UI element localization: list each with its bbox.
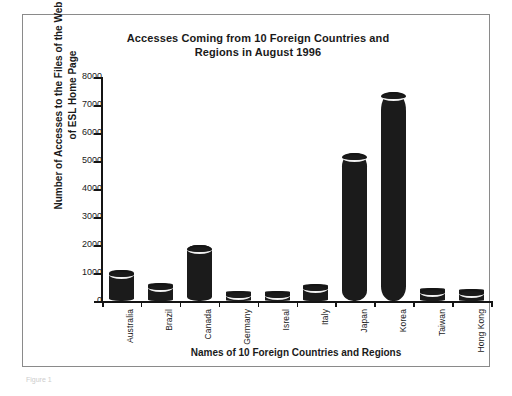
bar[interactable] <box>109 270 134 301</box>
x-tick-mark <box>491 301 493 307</box>
x-tick-mark <box>413 301 415 307</box>
bar-cylinder-body <box>420 288 445 301</box>
bar-cylinder-top <box>303 284 328 293</box>
figure-caption: Figure 1 <box>26 376 52 383</box>
x-axis-label: Italy <box>320 309 330 325</box>
bar-cylinder-top <box>187 245 212 254</box>
bar-cylinder-top-inner <box>305 286 326 291</box>
x-tick-mark <box>219 301 221 307</box>
x-axis-label: Hong Kong <box>476 309 486 352</box>
bar[interactable] <box>459 289 484 301</box>
x-axis-title: Names of 10 Foreign Countries and Region… <box>101 347 491 358</box>
y-tick-label: 7000 <box>58 99 102 109</box>
bar-cylinder-body <box>187 245 212 301</box>
x-axis-label: Brazil <box>164 309 174 331</box>
bar-cylinder-top-inner <box>228 293 249 298</box>
plot-area: Number of Accesses to the Files of the W… <box>23 15 491 368</box>
y-tick-label: 6000 <box>58 127 102 137</box>
y-tick-label: 1000 <box>58 267 102 277</box>
bar-cylinder-top-inner <box>189 247 210 252</box>
y-tick-label: 3000 <box>58 211 102 221</box>
bar-cylinder-body <box>303 284 328 301</box>
bar-cylinder-top-inner <box>344 155 365 160</box>
y-tick-label: 2000 <box>58 239 102 249</box>
x-tick-mark <box>258 301 260 307</box>
x-axis-label: Isreal <box>281 309 291 330</box>
bar-cylinder-body <box>342 153 367 301</box>
bar-cylinder-body <box>265 291 290 301</box>
bar-cylinder-top <box>459 289 484 298</box>
x-tick-mark <box>180 301 182 307</box>
figure-frame: Accesses Coming from 10 Foreign Countrie… <box>22 14 490 367</box>
bar-cylinder-top <box>148 283 173 292</box>
x-tick-mark <box>297 301 299 307</box>
bar-cylinder-top <box>109 270 134 279</box>
bar[interactable] <box>226 291 251 301</box>
bar-cylinder-top <box>381 92 406 101</box>
bar[interactable] <box>303 284 328 301</box>
y-tick-label: 5000 <box>58 155 102 165</box>
y-tick-label: 4000 <box>58 183 102 193</box>
bar[interactable] <box>265 291 290 301</box>
bar-cylinder-top-inner <box>461 291 482 296</box>
x-tick-mark <box>102 301 104 307</box>
bar-cylinder-top <box>265 291 290 300</box>
bar-cylinder-body <box>109 270 134 301</box>
bar-cylinder-top-inner <box>422 290 443 295</box>
bar-cylinder-top <box>342 153 367 162</box>
bar-cylinder-top <box>226 291 251 300</box>
x-axis-label: Australia <box>125 309 135 343</box>
bar[interactable] <box>420 288 445 301</box>
x-axis-label: Taiwan <box>437 309 447 336</box>
bar-cylinder-top-inner <box>111 272 132 277</box>
x-tick-mark <box>374 301 376 307</box>
x-tick-mark <box>452 301 454 307</box>
bar-cylinder-top <box>420 288 445 297</box>
bar-cylinder-top-inner <box>383 94 404 99</box>
bar-cylinder-body <box>381 92 406 301</box>
bar-cylinder-top-inner <box>267 293 288 298</box>
x-tick-mark <box>141 301 143 307</box>
x-axis-label: Korea <box>398 309 408 332</box>
bar[interactable] <box>148 283 173 301</box>
y-tick-label: 0 <box>58 295 102 305</box>
bar-cylinder-body <box>148 283 173 301</box>
y-tick-label: 8000 <box>58 71 102 81</box>
x-axis-label: Japan <box>359 309 369 333</box>
bar[interactable] <box>381 92 406 301</box>
x-tick-mark <box>335 301 337 307</box>
bar-cylinder-body <box>226 291 251 301</box>
bar-cylinder-body <box>459 289 484 301</box>
bar-cylinder-top-inner <box>150 285 171 290</box>
bar[interactable] <box>342 153 367 301</box>
x-axis-label: Germany <box>242 309 252 345</box>
x-axis-label: Canada <box>203 309 213 339</box>
bar[interactable] <box>187 245 212 301</box>
